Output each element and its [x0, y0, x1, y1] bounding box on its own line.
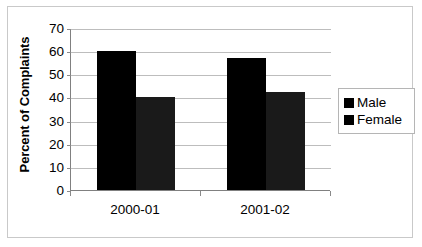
y-axis-tick — [67, 168, 71, 169]
gridline — [71, 29, 331, 30]
plot-area — [70, 29, 330, 191]
bar-female-2000-01 — [136, 97, 175, 190]
y-axis-tick-label: 0 — [22, 184, 64, 198]
x-axis-tick-label: 2000-01 — [90, 203, 180, 217]
bar-male-2000-01 — [97, 51, 136, 190]
y-axis-tick — [67, 145, 71, 146]
x-axis-tick — [330, 191, 331, 196]
y-axis-tick-label: 70 — [22, 22, 64, 36]
legend-swatch-icon — [344, 115, 354, 125]
y-axis-tick-label: 20 — [22, 138, 64, 152]
bar-female-2001-02 — [266, 92, 305, 190]
bar-chart-figure: Percent of Complaints 010203040506070 20… — [0, 0, 422, 247]
y-axis-tick-label: 30 — [22, 115, 64, 129]
y-axis-tick-label: 50 — [22, 68, 64, 82]
y-axis-tick — [67, 98, 71, 99]
x-axis-tick — [70, 191, 71, 196]
y-axis-tick-label: 10 — [22, 161, 64, 175]
legend-label-male: Male — [357, 96, 386, 110]
x-axis-tick — [200, 191, 201, 196]
y-axis-tick — [67, 29, 71, 30]
y-axis-tick-label: 60 — [22, 45, 64, 59]
y-axis-tick — [67, 122, 71, 123]
bar-male-2001-02 — [227, 58, 266, 190]
y-axis-tick — [67, 52, 71, 53]
chart-legend: Male Female — [338, 88, 415, 134]
x-axis-tick-label: 2001-02 — [220, 203, 310, 217]
legend-label-female: Female — [357, 113, 402, 127]
y-axis-tick-label: 40 — [22, 91, 64, 105]
legend-swatch-icon — [344, 98, 354, 108]
legend-item-male: Male — [344, 94, 410, 111]
legend-item-female: Female — [344, 111, 410, 128]
y-axis-tick — [67, 75, 71, 76]
